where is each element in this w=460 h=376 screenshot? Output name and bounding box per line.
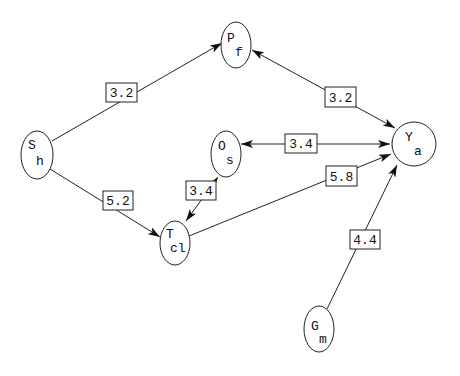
edge-label-sh-pf: 3.2 — [106, 83, 137, 102]
svg-text:T: T — [166, 227, 174, 242]
node-sh: S h — [21, 131, 53, 179]
svg-text:3.2: 3.2 — [329, 91, 352, 106]
edge-label-tcl-ya: 5.8 — [326, 166, 357, 186]
node-ya: Y a — [392, 122, 436, 166]
svg-text:O: O — [218, 139, 226, 154]
svg-text:cl: cl — [170, 241, 186, 256]
svg-text:a: a — [414, 144, 422, 159]
node-os: O s — [211, 131, 241, 177]
node-pf: P f — [221, 22, 251, 68]
svg-text:3.4: 3.4 — [289, 137, 313, 152]
edge-pf-ya — [252, 50, 395, 128]
svg-text:S: S — [28, 138, 36, 153]
svg-text:m: m — [319, 332, 327, 347]
edge-label-sh-tcl: 5.2 — [103, 191, 133, 210]
edge-label-pf-ya: 3.2 — [325, 87, 356, 107]
edge-label-gm-ya: 4.4 — [350, 230, 380, 249]
svg-text:h: h — [36, 154, 44, 169]
svg-text:s: s — [226, 153, 234, 168]
edge-label-tcl-os: 3.4 — [186, 181, 216, 200]
diagram-canvas: 3.2 3.2 3.4 5.2 3.4 5.8 4.4 S h P f O s — [0, 0, 460, 376]
graph-svg: 3.2 3.2 3.4 5.2 3.4 5.8 4.4 S h P f O s — [0, 0, 460, 376]
svg-text:3.4: 3.4 — [189, 184, 213, 199]
edge-label-os-ya: 3.4 — [285, 134, 317, 153]
node-gm: G m — [304, 306, 334, 352]
node-tcl: T cl — [160, 221, 190, 265]
svg-text:G: G — [311, 319, 319, 334]
svg-text:3.2: 3.2 — [110, 86, 133, 101]
svg-text:Y: Y — [405, 130, 413, 145]
svg-text:5.2: 5.2 — [106, 194, 129, 209]
svg-text:f: f — [235, 45, 243, 60]
svg-text:4.4: 4.4 — [353, 233, 377, 248]
svg-text:5.8: 5.8 — [330, 170, 353, 185]
svg-text:P: P — [227, 31, 235, 46]
